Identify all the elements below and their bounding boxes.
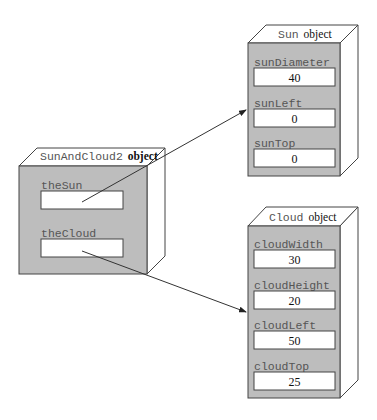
- field-label-cloudleft: cloudLeft: [254, 319, 316, 332]
- field-label-cloudwidth: cloudWidth: [254, 238, 323, 251]
- field-value-sundiameter: 40: [289, 71, 301, 85]
- field-value-cloudleft: 50: [289, 334, 301, 348]
- field-label-sunleft: sunLeft: [254, 97, 302, 110]
- box-side-face: [147, 148, 165, 274]
- field-value-cloudheight: 20: [289, 294, 301, 308]
- field-label-cloudtop: cloudTop: [254, 360, 309, 373]
- field-label-cloudheight: cloudHeight: [254, 279, 330, 292]
- object-title: Cloud object: [269, 211, 337, 224]
- field-label-thesun: theSun: [41, 179, 82, 192]
- sun-object-box: Sun object sunDiameter 40 sunLeft 0 sunT…: [248, 25, 358, 176]
- box-side-face: [340, 25, 358, 176]
- object-title: SunAndCloud2 object: [40, 150, 158, 163]
- field-label-thecloud: theCloud: [41, 227, 96, 240]
- field-label-suntop: sunTop: [254, 137, 296, 150]
- reference-arrow-thecloud-to-cloud: [82, 251, 246, 312]
- field-value-suntop: 0: [292, 152, 298, 166]
- field-box-thecloud: [41, 239, 123, 257]
- box-side-face: [340, 207, 358, 398]
- field-value-cloudwidth: 30: [289, 253, 301, 267]
- object-diagram: SunAndCloud2 object theSun theCloud Sun …: [0, 0, 377, 420]
- field-label-sundiameter: sunDiameter: [254, 56, 330, 69]
- field-value-cloudtop: 25: [289, 375, 301, 389]
- box-front-face: [19, 166, 147, 274]
- field-value-sunleft: 0: [292, 112, 298, 126]
- object-title: Sun object: [278, 28, 332, 41]
- field-box-thesun: [41, 191, 123, 209]
- cloud-object-box: Cloud object cloudWidth 30 cloudHeight 2…: [248, 207, 358, 398]
